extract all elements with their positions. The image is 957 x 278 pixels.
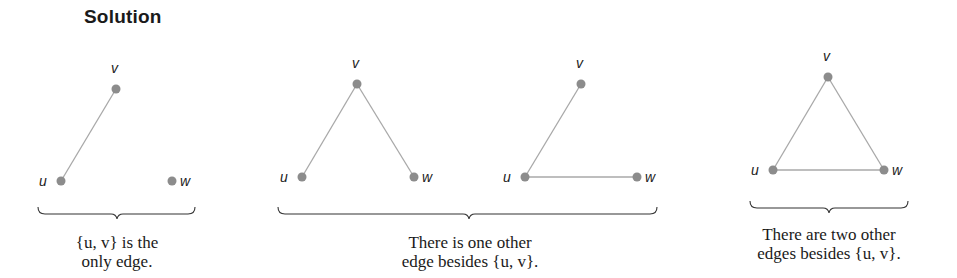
caption-3-line-1: There are two other <box>729 225 929 244</box>
node-label-w: w <box>422 169 433 185</box>
caption-2-line-1: There is one other <box>368 233 572 252</box>
node-u <box>298 173 307 182</box>
brace-2 <box>278 207 657 219</box>
graph-4: v u w <box>751 48 903 178</box>
node-label-u: u <box>280 169 288 185</box>
node-label-w: w <box>645 169 656 185</box>
edge-v-w <box>828 77 884 170</box>
node-u <box>769 166 778 175</box>
node-u <box>57 177 66 186</box>
node-label-v: v <box>352 55 360 71</box>
caption-1-line-2: only edge. <box>37 252 197 271</box>
graph-3: v u w <box>503 55 656 185</box>
edge-v-w <box>357 84 414 177</box>
edge-u-v <box>525 84 581 177</box>
brace-3 <box>750 201 908 213</box>
node-w <box>168 177 177 186</box>
node-label-u: u <box>751 162 759 178</box>
caption-3-line-2: edges besides {u, v}. <box>729 244 929 263</box>
graph-2: v u w <box>280 55 433 185</box>
caption-2-line-2: edge besides {u, v}. <box>368 252 572 271</box>
edge-u-v <box>61 89 116 181</box>
node-label-w: w <box>892 162 903 178</box>
caption-1: {u, v} is the only edge. <box>37 233 197 271</box>
caption-1-line-1: {u, v} is the <box>37 233 197 252</box>
node-label-v: v <box>576 55 584 71</box>
node-label-v: v <box>111 60 119 76</box>
node-w <box>633 173 642 182</box>
caption-2: There is one other edge besides {u, v}. <box>368 233 572 271</box>
node-label-u: u <box>39 173 47 189</box>
node-label-u: u <box>503 169 511 185</box>
node-u <box>521 173 530 182</box>
graph-1: v u w <box>39 60 191 189</box>
node-label-v: v <box>823 48 831 64</box>
node-v <box>112 85 121 94</box>
node-v <box>577 80 586 89</box>
node-w <box>880 166 889 175</box>
brace-1 <box>38 207 195 219</box>
caption-3: There are two other edges besides {u, v}… <box>729 225 929 263</box>
edge-u-v <box>302 84 357 177</box>
node-v <box>824 73 833 82</box>
node-label-w: w <box>180 173 191 189</box>
node-v <box>353 80 362 89</box>
node-w <box>410 173 419 182</box>
edge-u-v <box>773 77 828 170</box>
